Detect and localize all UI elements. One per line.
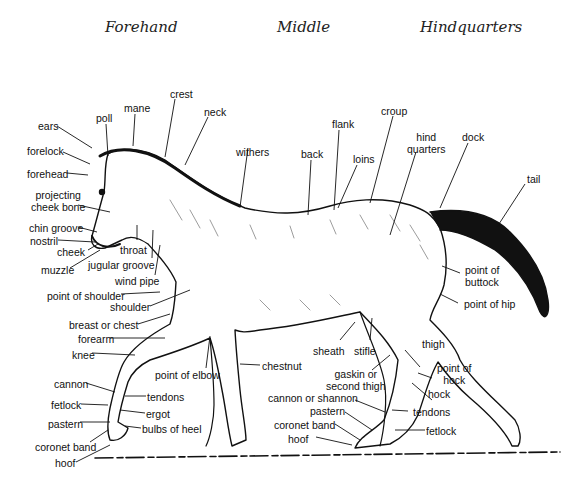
label-hind-tendons: tendons [413,406,450,418]
label-chin-groove: chin groove [29,222,83,234]
label-hind-quarters: hind quarters [407,131,446,155]
label-hind-pastern: pastern [310,405,345,417]
label-hoof: hoof [55,457,75,469]
label-jugular-groove: jugular groove [88,259,155,271]
label-point-of-hock: point of hock [437,362,471,386]
label-coronet-band: coronet band [35,441,96,453]
label-forehead: forehead [27,168,68,180]
label-throat: throat [120,244,147,256]
label-hind-hoof: hoof [288,433,308,445]
label-chestnut: chestnut [262,360,302,372]
label-muzzle: muzzle [41,264,74,276]
label-stifle: stifle [354,345,376,357]
label-croup: croup [381,105,407,117]
label-sheath: sheath [313,345,345,357]
label-point-of-buttock: point of buttock [465,264,499,288]
label-tendons: tendons [147,391,184,403]
label-crest: crest [170,88,193,100]
label-mane: mane [124,102,150,114]
label-pastern: pastern [48,418,83,430]
label-dock: dock [462,131,484,143]
label-bulbs-of-heel: bulbs of heel [142,423,202,435]
label-flank: flank [332,118,354,130]
label-ergot: ergot [146,408,170,420]
label-breast-or-chest: breast or chest [69,319,138,331]
label-hock: hock [428,388,450,400]
label-wind-pipe: wind pipe [115,275,159,287]
label-shoulder: shoulder [110,301,150,313]
label-cheek: cheek [57,246,85,258]
ground-line [95,452,560,458]
label-projecting-cheek-bone: projecting cheek bone [31,189,85,213]
label-hind-fetlock: fetlock [426,425,456,437]
label-neck: neck [204,106,226,118]
label-point-of-hip: point of hip [464,298,515,310]
label-poll: poll [96,112,112,124]
label-point-of-elbow: point of elbow [155,369,220,381]
label-gaskin-or-second-thigh: gaskin or second thigh [326,368,386,392]
label-thigh: thigh [422,338,445,350]
label-cannon: cannon [54,378,88,390]
label-forearm: forearm [78,333,114,345]
horse-illustration [0,0,576,491]
label-nostril: nostril [30,235,58,247]
mane [100,150,240,206]
label-cannon-or-shannon: cannon or shannon [268,392,358,404]
label-withers: withers [236,146,269,158]
label-loins: loins [353,153,375,165]
label-hind-coronet-band: coronet band [274,419,335,431]
label-knee: knee [72,349,95,361]
label-ears: ears [38,120,58,132]
label-forelock: forelock [27,145,64,157]
label-fetlock: fetlock [51,399,81,411]
label-back: back [301,148,323,160]
label-tail: tail [527,173,540,185]
